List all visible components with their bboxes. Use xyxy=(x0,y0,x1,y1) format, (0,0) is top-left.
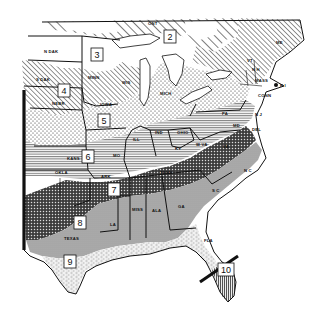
label-nebr: NEBR xyxy=(52,101,65,106)
svg-text:6: 6 xyxy=(85,152,90,162)
zone-9-label: 9 xyxy=(64,255,76,268)
label-tenn: TENN xyxy=(160,170,172,175)
label-kans: KANS xyxy=(67,156,80,161)
label-miss: MISS xyxy=(132,207,143,212)
svg-text:10: 10 xyxy=(221,265,231,275)
label-va: VA xyxy=(223,144,229,149)
label-la: LA xyxy=(110,222,116,227)
label-wis: WIS xyxy=(122,80,131,85)
label-ind: IND xyxy=(155,130,163,135)
label-okla: OKLA xyxy=(55,170,68,175)
svg-text:5: 5 xyxy=(101,116,106,126)
label-n-j: N J xyxy=(255,112,263,117)
label-n-h: N H xyxy=(252,67,260,72)
label-mo: MO xyxy=(113,153,121,158)
svg-text:4: 4 xyxy=(61,86,66,96)
hardiness-zone-map: 2 3 4 5 6 7 8 9 10 N DAK S DAK NEBR KANS… xyxy=(0,0,315,317)
label-w-va: W VA xyxy=(196,142,207,147)
label-del: DEL xyxy=(252,127,261,132)
svg-text:3: 3 xyxy=(94,50,99,60)
label-s-dak: S DAK xyxy=(36,77,50,82)
zone-4-label: 4 xyxy=(58,84,70,97)
label-texas: TEXAS xyxy=(64,236,79,241)
label-n-dak: N DAK xyxy=(44,49,58,54)
zone-7-label: 7 xyxy=(108,183,120,196)
zone-3-label: 3 xyxy=(91,48,103,61)
label-ala: ALA xyxy=(152,208,161,213)
label-ohio: OHIO xyxy=(177,130,189,135)
label-ga: GA xyxy=(178,204,185,209)
zone-2-label: 2 xyxy=(164,30,176,43)
svg-text:7: 7 xyxy=(111,185,116,195)
rhode-island-marker xyxy=(274,83,278,87)
label-pa: PA xyxy=(222,111,228,116)
label-mich: MICH xyxy=(160,91,172,96)
label-md: MD xyxy=(233,123,240,128)
zone-6-label: 6 xyxy=(82,150,94,163)
label-iowa: IOWA xyxy=(100,102,112,107)
label-ill: ILL xyxy=(133,137,140,142)
zone-8-label: 8 xyxy=(74,216,86,229)
svg-text:2: 2 xyxy=(167,32,172,42)
label-fla: FLA xyxy=(204,238,213,243)
label-me: ME xyxy=(276,40,283,45)
label-n-c: N C xyxy=(244,168,252,173)
zone-5-label: 5 xyxy=(98,114,110,127)
label-r-i: R I xyxy=(280,83,286,88)
label-s-c: S C xyxy=(212,188,220,193)
label-ky: KY xyxy=(175,146,181,151)
label-ont: ONT xyxy=(148,21,158,26)
zone-10-label: 10 xyxy=(218,263,234,276)
label-minn: MINN xyxy=(88,75,100,80)
label-vt: VT xyxy=(247,58,253,63)
svg-text:9: 9 xyxy=(67,257,72,267)
label-ark: ARK xyxy=(101,174,111,179)
label-conn: CONN xyxy=(258,93,271,98)
svg-text:8: 8 xyxy=(77,218,82,228)
label-mass: MASS xyxy=(255,78,268,83)
